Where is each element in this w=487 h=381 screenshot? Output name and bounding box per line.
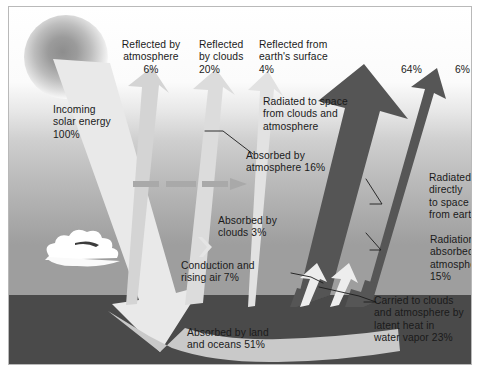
label-incoming-solar: Incoming solar energy 100% <box>53 104 111 141</box>
label-absorbed-atmosphere: Absorbed by atmosphere 16% <box>246 150 356 175</box>
label-pct-6: 6% <box>455 64 470 76</box>
label-pct-64: 64% <box>401 64 422 76</box>
label-radiated-to-space: Radiated to space from clouds and atmosp… <box>263 96 371 133</box>
label-reflected-atmosphere: Reflected by atmosphere 6% <box>110 39 192 76</box>
label-absorbed-land: Absorbed by land and oceans 51% <box>187 327 305 352</box>
label-conduction: Conduction and rising air 7% <box>181 260 295 285</box>
label-reflected-surface: Reflected from earth's surface 4% <box>259 39 359 76</box>
diagram-scene: Incoming solar energy 100% Reflected by … <box>9 7 471 364</box>
energy-budget-figure: Incoming solar energy 100% Reflected by … <box>8 6 472 365</box>
label-radiated-directly: Radiated directly to space from earth <box>429 172 472 222</box>
label-radiation-absorbed: Radiation absorbed by atmosphere 15% <box>430 234 472 284</box>
label-carried-to-clouds: Carried to clouds and atmosphere by late… <box>374 295 472 345</box>
label-absorbed-clouds: Absorbed by clouds 3% <box>218 215 310 240</box>
